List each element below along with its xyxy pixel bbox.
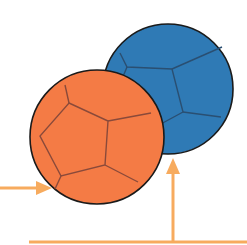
diagram-canvas bbox=[0, 0, 247, 245]
orange-ball bbox=[30, 70, 164, 204]
horizontal-arrow bbox=[0, 181, 52, 195]
vertical-arrow bbox=[166, 158, 180, 242]
